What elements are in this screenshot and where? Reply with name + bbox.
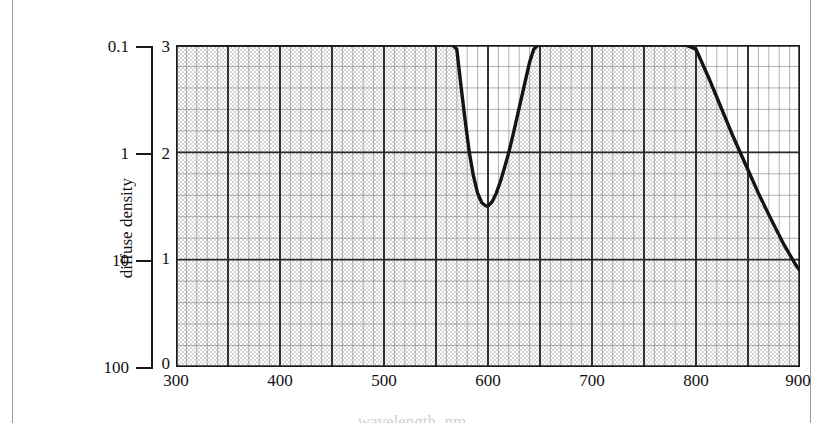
transmittance-label-0.1: 0.1 (108, 38, 129, 55)
plot-area (176, 45, 800, 367)
x-tick-label-800: 800 (666, 372, 726, 389)
page-margin-rule-right (810, 0, 811, 423)
density-axis: diffuse density (122, 70, 146, 320)
x-tick-label-500: 500 (354, 372, 414, 389)
density-tick-label-3: 3 (150, 38, 170, 55)
spectral-density-chart (176, 45, 800, 367)
x-tick-label-600: 600 (458, 372, 518, 389)
x-tick-label-700: 700 (562, 372, 622, 389)
density-tick-label-2: 2 (150, 145, 170, 162)
density-tick-label-1: 1 (150, 250, 170, 267)
transmittance-label-100: 100 (104, 359, 130, 376)
x-tick-label-400: 400 (250, 372, 310, 389)
x-tick-label-300: 300 (146, 372, 206, 389)
x-tick-label-900: 900 (768, 372, 824, 389)
density-tick-label-0: 0 (150, 355, 170, 372)
figure-container: transmittance, per cent 0.1 1 10 100 dif… (0, 0, 824, 423)
x-axis-title: wavelength, nm (0, 412, 824, 423)
